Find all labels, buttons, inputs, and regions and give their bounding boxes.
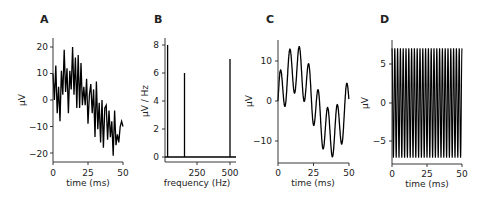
panel-b-ytick: 6 bbox=[153, 68, 159, 78]
panel-c-xtick: 50 bbox=[343, 168, 355, 178]
panel-d-xlabel: time (ms) bbox=[405, 179, 449, 189]
panel-d-xtick: 50 bbox=[456, 169, 468, 179]
panel-c-signal-line bbox=[278, 47, 349, 157]
panel-b-xlabel: frequency (Hz) bbox=[164, 178, 231, 188]
panel-a-signal-line bbox=[53, 47, 123, 156]
panel-a-ytick: 0 bbox=[42, 95, 48, 105]
panel-c-ylabel: µV bbox=[244, 94, 254, 107]
panel-d-xtick: 0 bbox=[389, 169, 395, 179]
panel-a-label: A bbox=[40, 13, 49, 26]
panel-d-ytick: 0 bbox=[380, 98, 386, 108]
panel-c-xlabel: time (ms) bbox=[291, 178, 335, 188]
panel-d-xtick: 25 bbox=[421, 169, 432, 179]
panel-a-xlabel: time (ms) bbox=[66, 178, 110, 188]
panel-a-ytick: 20 bbox=[37, 42, 49, 52]
panel-b-spectrum-peaks bbox=[168, 45, 230, 157]
panel-a-ytick: −10 bbox=[29, 122, 48, 132]
panel-c-ytick: −10 bbox=[253, 136, 272, 146]
panel-a-xtick: 0 bbox=[50, 168, 56, 178]
panel-a-xtick: 50 bbox=[117, 168, 129, 178]
panel-b-label: B bbox=[154, 13, 162, 26]
panel-d-ytick: 5 bbox=[380, 59, 386, 69]
panel-d-label: D bbox=[380, 13, 389, 26]
panel-c-label: C bbox=[266, 13, 274, 26]
panel-a-ylabel: µV bbox=[17, 93, 27, 106]
panel-b-ytick: 4 bbox=[153, 96, 159, 106]
panel-b-ytick: 0 bbox=[153, 152, 159, 162]
panel-d-signal-line bbox=[392, 48, 462, 157]
panel-b-xtick: 250 bbox=[188, 168, 205, 178]
panel-b: B 8 6 4 2 0 250 500 frequency (Hz) µV / … bbox=[140, 13, 239, 188]
panel-b-ylabel: µV / Hz bbox=[140, 85, 150, 117]
panel-d-ylabel: µV bbox=[360, 96, 370, 109]
panel-c-ytick: 10 bbox=[261, 56, 273, 66]
panel-a: A 20 10 0 −10 −20 0 25 50 time (ms) µV bbox=[17, 13, 129, 188]
panel-c-xtick: 25 bbox=[308, 168, 319, 178]
panel-a-ytick: −20 bbox=[29, 149, 48, 159]
panel-b-xtick: 500 bbox=[221, 168, 238, 178]
panel-c-xtick: 0 bbox=[275, 168, 281, 178]
panel-d-ytick: −5 bbox=[373, 136, 386, 146]
figure: A 20 10 0 −10 −20 0 25 50 time (ms) µV B… bbox=[0, 0, 484, 199]
panel-b-ytick: 2 bbox=[153, 124, 159, 134]
panel-a-ytick: 10 bbox=[37, 68, 49, 78]
panel-c-ytick: 0 bbox=[266, 96, 272, 106]
panel-a-xtick: 25 bbox=[82, 168, 93, 178]
panel-b-ytick: 8 bbox=[153, 40, 159, 50]
panel-d: D 5 0 −5 0 25 50 time (ms) µV bbox=[360, 13, 468, 189]
panel-c: C 10 0 −10 0 25 50 time (ms) µV bbox=[244, 13, 355, 188]
